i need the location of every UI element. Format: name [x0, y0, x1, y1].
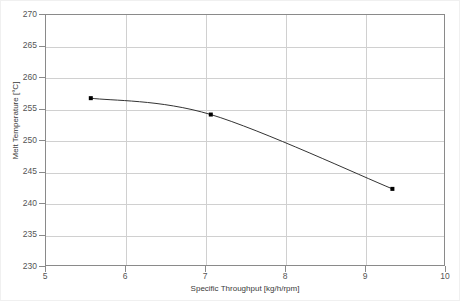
tick-label-x-8: 8	[273, 272, 297, 281]
tick-y-265	[39, 46, 45, 47]
tick-label-x-7: 7	[193, 272, 217, 281]
y-axis-title: Melt Temperature [°C]	[11, 61, 20, 181]
tick-y-250	[39, 140, 45, 141]
tick-label-y-240: 240	[3, 199, 37, 208]
tick-y-255	[39, 109, 45, 110]
tick-label-x-10: 10	[433, 272, 457, 281]
data-series-layer	[46, 15, 446, 267]
plot-area	[45, 14, 445, 266]
tick-y-245	[39, 172, 45, 173]
tick-label-y-255: 255	[3, 104, 37, 113]
tick-label-x-6: 6	[113, 272, 137, 281]
tick-y-240	[39, 203, 45, 204]
series-markers-melt-temperature	[89, 96, 395, 191]
tick-label-y-260: 260	[3, 73, 37, 82]
chart-container: 230235240245250255260265270 5678910 Melt…	[0, 0, 460, 301]
tick-label-y-250: 250	[3, 136, 37, 145]
series-line-melt-temperature	[91, 98, 393, 189]
tick-y-235	[39, 235, 45, 236]
tick-label-y-270: 270	[3, 10, 37, 19]
tick-label-y-265: 265	[3, 41, 37, 50]
tick-label-y-235: 235	[3, 230, 37, 239]
data-point-marker	[89, 96, 93, 100]
tick-label-y-230: 230	[3, 262, 37, 271]
tick-label-y-245: 245	[3, 167, 37, 176]
tick-y-270	[39, 14, 45, 15]
tick-y-260	[39, 77, 45, 78]
tick-label-x-5: 5	[33, 272, 57, 281]
x-axis-title: Specific Throughput [kg/h/rpm]	[45, 284, 445, 293]
data-point-marker	[390, 187, 394, 191]
data-point-marker	[209, 113, 213, 117]
tick-label-x-9: 9	[353, 272, 377, 281]
